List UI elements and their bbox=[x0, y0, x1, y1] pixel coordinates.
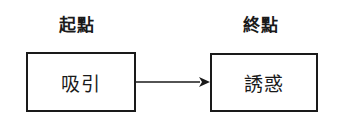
flow-arrow-icon bbox=[0, 0, 341, 124]
